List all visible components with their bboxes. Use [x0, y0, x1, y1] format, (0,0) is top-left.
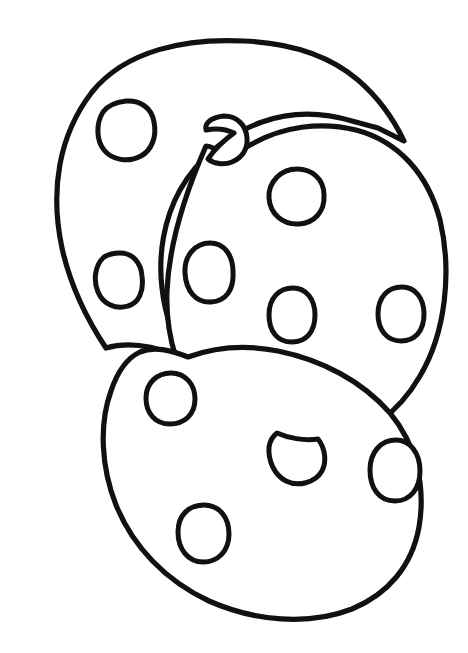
back-chip-2-icon [95, 253, 142, 307]
front-chip-top-icon [146, 373, 195, 424]
back-chip-1-icon [98, 101, 155, 160]
coloring-page-artboard [0, 0, 468, 653]
front-chip-right-icon [370, 440, 420, 501]
mid-chip-left-icon [185, 243, 233, 302]
cookies-line-art [0, 0, 468, 653]
mid-chip-center-icon [269, 288, 315, 342]
mid-chip-right-icon [378, 287, 424, 341]
front-chip-hanging-icon [269, 433, 325, 484]
mid-chip-top-icon [269, 169, 324, 224]
front-chip-bottom-icon [178, 505, 229, 562]
